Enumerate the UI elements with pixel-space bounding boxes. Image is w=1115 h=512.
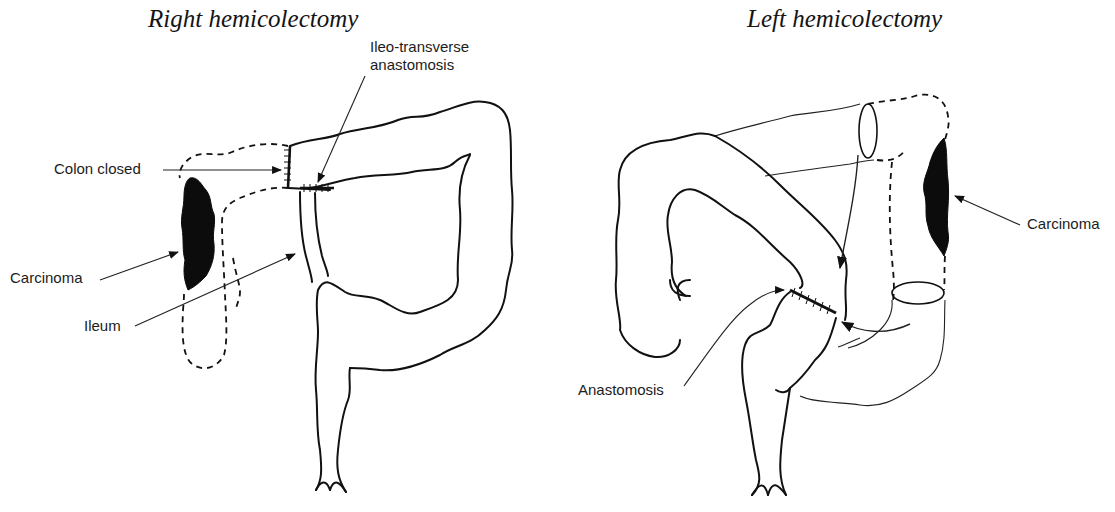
- transverse-colon-lower: [310, 154, 470, 188]
- resected-segment-outline: [180, 144, 289, 178]
- rectum-right-curl: [330, 483, 346, 492]
- carcinoma-mass-left: [924, 138, 949, 256]
- sigmoid-left-wall-left: [742, 292, 790, 495]
- divided-colon-end-top: [859, 104, 877, 158]
- sigmoid-fold-left: [776, 388, 790, 392]
- leader-ileum: [135, 254, 295, 326]
- ileum-wall-left: [300, 192, 312, 282]
- mobilised-transverse-upper: [715, 104, 860, 136]
- sigmoid-right-wall: [337, 368, 350, 492]
- arrow-proximal-down: [840, 155, 858, 268]
- divided-colon-end-bottom: [892, 282, 944, 304]
- leader-carcinoma-left: [955, 196, 1020, 225]
- arrow-distal-up: [842, 322, 910, 331]
- descending-colon-outer: [350, 130, 513, 370]
- transverse-colon-upper: [290, 102, 510, 146]
- resected-segment-lower-left: [944, 256, 945, 290]
- resected-segment-outline-left: [868, 95, 949, 140]
- ileum-wall-right: [315, 193, 328, 276]
- anastomosis-suture: [790, 290, 836, 313]
- sigmoid-left-wall: [315, 332, 321, 490]
- carcinoma-mass-right: [181, 178, 214, 290]
- leader-anastomosis: [684, 290, 784, 386]
- colon-closed-suture: [288, 146, 290, 188]
- diagram-canvas: [0, 0, 1115, 512]
- left-hemicolectomy-illustration: [616, 95, 1020, 495]
- sigmoid-right-wall-left: [780, 318, 836, 495]
- ileum-resected-part: [233, 258, 240, 310]
- leader-carcinoma-right: [100, 252, 178, 280]
- transverse-colon-outer-left: [616, 133, 715, 357]
- transverse-colon-fold: [715, 136, 847, 320]
- resected-segment-inner-left: [877, 150, 905, 300]
- right-hemicolectomy-illustration: [100, 76, 513, 492]
